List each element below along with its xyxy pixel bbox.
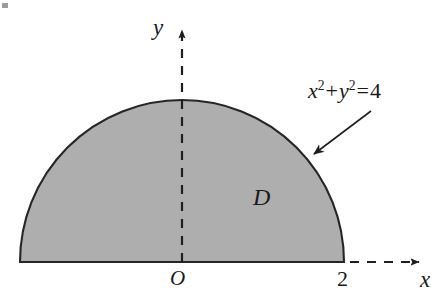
equation-value: 4 — [370, 78, 381, 103]
equation-leader-arrow — [314, 111, 371, 154]
equation-y-symbol: y — [339, 78, 349, 103]
origin-label: O — [170, 268, 185, 289]
equation-equals-sign: = — [356, 78, 370, 103]
equation-x-symbol: x — [308, 78, 318, 103]
circle-equation-label: x2+y2=4 — [308, 80, 381, 102]
equation-y-exponent: 2 — [349, 78, 356, 93]
equation-x-exponent: 2 — [318, 78, 325, 93]
y-axis-label: y — [153, 16, 163, 39]
equation-plus-sign: + — [325, 78, 339, 103]
x-axis-label: x — [420, 268, 430, 291]
region-label-d: D — [253, 185, 270, 209]
diagram-canvas — [0, 0, 443, 304]
x-tick-label-2: 2 — [337, 268, 348, 290]
semicircle-region-diagram: y x O 2 D x2+y2=4 — [0, 0, 443, 304]
